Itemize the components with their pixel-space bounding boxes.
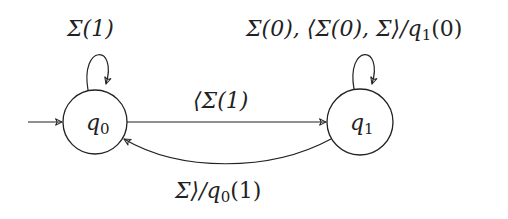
q1-label: q (350, 110, 364, 135)
q1-self-loop-label: Σ(0), ⟨Σ(0), Σ⟩/q1(0) (245, 16, 462, 44)
q0-self-loop-label: Σ(1) (66, 16, 114, 41)
q0-self-loop-edge (87, 55, 108, 90)
q1-to-q0-label: Σ⟩/q0(1) (174, 178, 261, 206)
state-q1: q1 (327, 89, 393, 155)
q0-label: q (86, 110, 100, 135)
state-q0: q0 (63, 90, 127, 154)
q0-to-q1-label: ⟨Σ(1) (193, 88, 248, 113)
svg-text:q1: q1 (350, 110, 374, 138)
state-diagram: q0 q1 Σ(1) Σ(0), ⟨Σ(0), Σ⟩/q1(0) ⟨Σ(1) Σ… (0, 0, 508, 219)
q1-to-q0-edge (124, 139, 331, 164)
svg-text:q0: q0 (86, 110, 110, 138)
q1-self-loop-edge (353, 55, 374, 89)
